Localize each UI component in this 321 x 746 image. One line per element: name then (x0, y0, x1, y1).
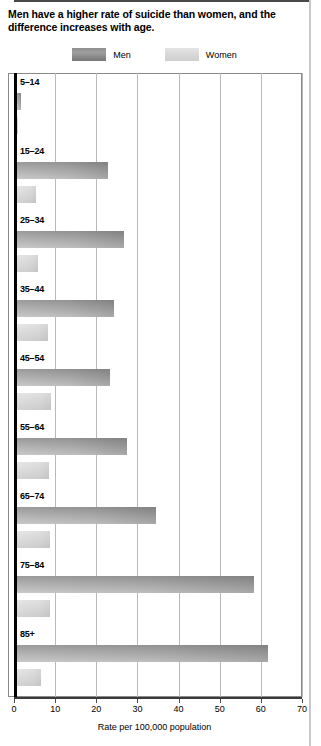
legend-swatch-women (165, 48, 199, 61)
x-tick-label-50: 50 (215, 704, 225, 714)
bar-women (17, 600, 50, 617)
bar-group: 5–14 (0, 75, 321, 144)
bar-men (17, 93, 21, 110)
bar-women (17, 669, 41, 686)
bar-men (17, 231, 124, 248)
x-tick-label-10: 10 (50, 704, 60, 714)
bar-women (17, 324, 48, 341)
bar-men (17, 507, 156, 524)
group-label: 45–54 (20, 353, 44, 363)
x-tick-10 (55, 699, 56, 703)
group-label: 85+ (20, 629, 35, 639)
bar-group: 65–74 (0, 489, 321, 558)
x-tick-40 (179, 699, 180, 703)
x-tick-0 (14, 699, 15, 703)
x-axis-title: Rate per 100,000 population (0, 722, 309, 732)
legend-swatch-men (72, 48, 106, 61)
x-tick-label-70: 70 (297, 704, 307, 714)
legend-label-women: Women (206, 50, 237, 60)
group-label: 15–24 (20, 146, 44, 156)
top-rule (14, 0, 309, 2)
bar-group: 55–64 (0, 420, 321, 489)
bar-women (17, 255, 38, 272)
legend-item-men: Men (72, 48, 131, 61)
bar-women (17, 117, 18, 134)
bar-women (17, 531, 50, 548)
chart-legend: Men Women (0, 48, 309, 61)
group-label: 35–44 (20, 284, 44, 294)
bar-group: 35–44 (0, 282, 321, 351)
x-tick-70 (302, 699, 303, 703)
group-label: 75–84 (20, 560, 44, 570)
bar-men (17, 645, 268, 662)
bar-women (17, 462, 49, 479)
bar-group: 25–34 (0, 213, 321, 282)
bar-women (17, 186, 36, 203)
bar-men (17, 438, 127, 455)
bar-groups: 5–1415–2425–3435–4445–5455–6465–7475–848… (0, 73, 321, 697)
group-label: 25–34 (20, 215, 44, 225)
bar-women (17, 393, 51, 410)
group-label: 5–14 (20, 77, 39, 87)
bar-men (17, 300, 114, 317)
x-tick-label-40: 40 (174, 704, 184, 714)
x-tick-label-0: 0 (11, 704, 16, 714)
bar-group: 85+ (0, 627, 321, 696)
x-tick-label-20: 20 (91, 704, 101, 714)
x-tick-50 (220, 699, 221, 703)
bar-group: 15–24 (0, 144, 321, 213)
legend-label-men: Men (113, 50, 131, 60)
chart-title: Men have a higher rate of suicide than w… (8, 8, 296, 34)
x-tick-label-60: 60 (256, 704, 266, 714)
bar-men (17, 369, 110, 386)
x-tick-label-30: 30 (132, 704, 142, 714)
x-axis-tick-labels: 010203040506070 (0, 704, 321, 718)
x-tick-20 (96, 699, 97, 703)
bar-men (17, 576, 254, 593)
bar-group: 75–84 (0, 558, 321, 627)
x-tick-60 (261, 699, 262, 703)
x-tick-30 (137, 699, 138, 703)
legend-item-women: Women (165, 48, 237, 61)
chart-page: Men have a higher rate of suicide than w… (0, 0, 321, 746)
group-label: 65–74 (20, 491, 44, 501)
bar-men (17, 162, 108, 179)
bar-group: 45–54 (0, 351, 321, 420)
group-label: 55–64 (20, 422, 44, 432)
